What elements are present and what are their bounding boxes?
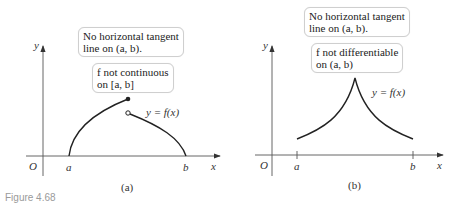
a-label: a (66, 161, 72, 173)
note-no-horizontal-tangent-b: No horizontal tangent line on (a, b). (304, 7, 410, 37)
x-axis-label: x (210, 160, 216, 172)
note-line: No horizontal tangent (83, 30, 179, 42)
curve-left-piece (69, 99, 128, 156)
curve-label: y = f(x) (371, 86, 405, 99)
origin-label: O (260, 159, 268, 171)
b-label: b (410, 160, 416, 172)
origin-label: O (29, 160, 37, 172)
panel-label: (a) (121, 181, 134, 194)
note-not-differentiable: f not differentiable on (a, b) (311, 43, 403, 73)
note-line: f not continuous (97, 66, 169, 78)
filled-endpoint (126, 97, 131, 102)
note-line: line on (a, b). (309, 22, 405, 34)
a-label: a (294, 160, 300, 172)
note-not-continuous: f not continuous on [a, b] (92, 63, 174, 93)
note-line: on (a, b) (316, 58, 398, 70)
note-line: line on (a, b). (83, 42, 179, 54)
open-endpoint (126, 111, 130, 115)
note-line: on [a, b] (97, 78, 169, 90)
curve-right-piece (130, 114, 186, 156)
y-axis-label: y (33, 39, 39, 51)
x-axis-label: x (436, 159, 442, 171)
note-line: f not differentiable (316, 46, 398, 58)
note-line: No horizontal tangent (309, 10, 405, 22)
figure-caption: Figure 4.68 (5, 192, 56, 203)
curve-label: y = f(x) (145, 106, 179, 119)
panel-label: (b) (348, 179, 361, 192)
note-no-horizontal-tangent-a: No horizontal tangent line on (a, b). (78, 27, 184, 57)
b-label: b (183, 161, 189, 173)
y-axis-label: y (262, 39, 268, 51)
